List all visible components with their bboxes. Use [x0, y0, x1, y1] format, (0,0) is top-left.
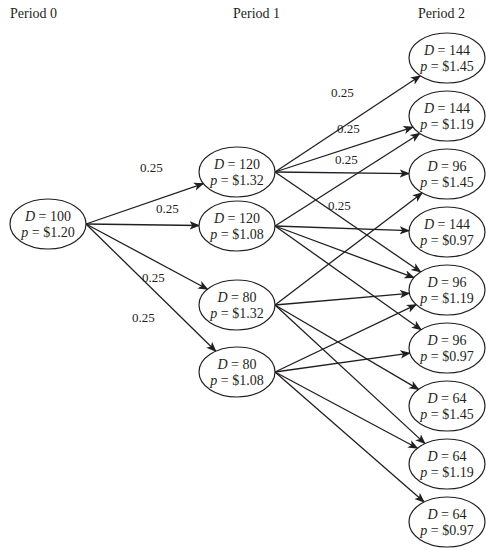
- edge-a-to-n5: [275, 172, 421, 272]
- node-ellipse: [409, 439, 485, 489]
- node-demand-text: D = 144: [423, 43, 470, 58]
- probability-label: 0.25: [335, 152, 358, 167]
- node-demand-text: D = 120: [213, 157, 260, 172]
- node-price-text: p = $1.19: [419, 291, 473, 306]
- node-period1-b: D = 120p = $1.08: [199, 201, 275, 251]
- node-demand-text: D = 64: [426, 507, 466, 522]
- node-ellipse: [409, 381, 485, 431]
- node-ellipse: [409, 265, 485, 315]
- node-demand-text: D = 96: [426, 159, 466, 174]
- edge-c-to-n5: [275, 293, 409, 305]
- node-demand-text: D = 80: [216, 290, 256, 305]
- probability-label: 0.25: [156, 201, 179, 216]
- probability-label: 0.25: [328, 198, 351, 213]
- node-price-text: p = $1.08: [209, 227, 263, 242]
- edge-b-to-n4: [275, 226, 409, 231]
- node-price-text: p = $1.08: [209, 373, 263, 388]
- edge-d-to-n8: [275, 372, 418, 448]
- edge-d-to-n9: [275, 372, 424, 502]
- node-period2-n2: D = 144p = $1.19: [409, 91, 485, 141]
- node-demand-text: D = 144: [423, 101, 470, 116]
- node-period2-n9: D = 64p = $0.97: [409, 497, 485, 547]
- node-ellipse: [409, 149, 485, 199]
- node-price-text: p = $1.32: [209, 306, 263, 321]
- node-ellipse: [409, 33, 485, 83]
- period-0-label: Period 0: [10, 6, 57, 22]
- probability-label: 0.25: [140, 160, 163, 175]
- node-period2-n7: D = 64p = $1.45: [409, 381, 485, 431]
- node-price-text: p = $0.97: [419, 233, 473, 248]
- node-ellipse: [199, 347, 275, 397]
- node-price-text: p = $1.32: [209, 173, 263, 188]
- node-period2-n6: D = 96p = $0.97: [409, 323, 485, 373]
- node-period1-a: D = 120p = $1.32: [199, 147, 275, 197]
- node-demand-text: D = 120: [213, 211, 260, 226]
- node-demand-text: D = 64: [426, 449, 466, 464]
- node-price-text: p = $1.45: [419, 59, 473, 74]
- node-period0-p0: D = 100p = $1.20: [10, 199, 86, 249]
- node-ellipse: [409, 91, 485, 141]
- node-ellipse: [199, 147, 275, 197]
- node-demand-text: D = 96: [426, 275, 466, 290]
- node-period2-n4: D = 144p = $0.97: [409, 207, 485, 257]
- node-layer: D = 100p = $1.20D = 120p = $1.32D = 120p…: [10, 33, 485, 547]
- node-price-text: p = $1.20: [20, 225, 74, 240]
- edge-p0-to-d: [86, 224, 216, 351]
- node-price-text: p = $0.97: [419, 349, 473, 364]
- node-demand-text: D = 96: [426, 333, 466, 348]
- node-period2-n8: D = 64p = $1.19: [409, 439, 485, 489]
- decision-tree: D = 100p = $1.20D = 120p = $1.32D = 120p…: [0, 0, 486, 550]
- node-demand-text: D = 100: [24, 209, 71, 224]
- node-ellipse: [199, 280, 275, 330]
- node-ellipse: [409, 497, 485, 547]
- node-price-text: p = $1.19: [419, 117, 473, 132]
- node-period1-c: D = 80p = $1.32: [199, 280, 275, 330]
- probability-label: 0.25: [337, 121, 360, 136]
- edge-p0-to-b: [86, 224, 199, 225]
- node-demand-text: D = 64: [426, 391, 466, 406]
- probability-label: 0.25: [132, 310, 155, 325]
- node-price-text: p = $1.45: [419, 175, 473, 190]
- node-period2-n1: D = 144p = $1.45: [409, 33, 485, 83]
- node-price-text: p = $1.45: [419, 407, 473, 422]
- node-demand-text: D = 80: [216, 357, 256, 372]
- node-period2-n3: D = 96p = $1.45: [409, 149, 485, 199]
- edge-a-to-n3: [275, 172, 409, 174]
- edge-c-to-n8: [275, 305, 425, 444]
- node-ellipse: [409, 207, 485, 257]
- period-1-label: Period 1: [233, 6, 280, 22]
- edge-p0-to-a: [86, 184, 203, 224]
- node-period1-d: D = 80p = $1.08: [199, 347, 275, 397]
- edge-b-to-n6: [275, 226, 421, 330]
- node-period2-n5: D = 96p = $1.19: [409, 265, 485, 315]
- probability-label: 0.25: [142, 270, 165, 285]
- node-price-text: p = $1.19: [419, 465, 473, 480]
- edge-c-to-n7: [275, 305, 419, 389]
- period-2-label: Period 2: [418, 6, 465, 22]
- node-ellipse: [199, 201, 275, 251]
- probability-label: 0.25: [331, 85, 354, 100]
- node-price-text: p = $0.97: [419, 523, 473, 538]
- node-demand-text: D = 144: [423, 217, 470, 232]
- node-ellipse: [10, 199, 86, 249]
- node-ellipse: [409, 323, 485, 373]
